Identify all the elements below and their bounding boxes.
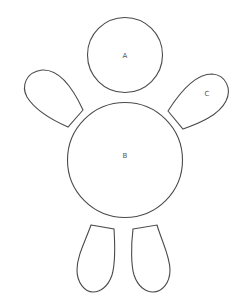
- right-arm-shape: [168, 74, 228, 129]
- left-leg-part: [77, 225, 115, 292]
- left-arm-shape: [25, 70, 83, 127]
- body-circle: [68, 103, 183, 218]
- right-leg-shape: [132, 225, 170, 292]
- right-leg-part: [132, 225, 170, 292]
- left-leg-shape: [77, 225, 115, 292]
- head-part: A: [88, 18, 163, 93]
- head-label: A: [123, 52, 128, 60]
- body-part: B: [68, 103, 183, 218]
- figure-diagram: A B C: [0, 0, 237, 299]
- body-label: B: [123, 152, 128, 160]
- right-arm-part: C: [168, 74, 228, 129]
- left-arm-part: [25, 70, 83, 127]
- right-arm-label: C: [205, 90, 210, 98]
